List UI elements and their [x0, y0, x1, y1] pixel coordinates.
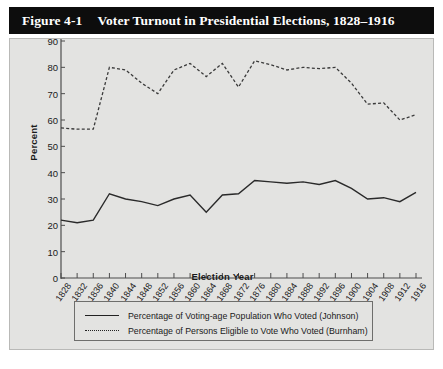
figure-container: Figure 4-1 Voter Turnout in Presidential…	[0, 0, 443, 369]
axis-lines	[61, 39, 422, 279]
x-tick-label: 1832	[70, 281, 90, 303]
legend-key-dotted-icon	[85, 330, 119, 331]
y-tick-label: 10	[36, 246, 58, 257]
y-tick-label: 20	[36, 220, 58, 231]
y-axis-ticks: 0102030405060708090	[34, 39, 58, 279]
x-tick-label: 1860	[183, 281, 203, 303]
x-tick-label: 1888	[296, 281, 316, 303]
x-tick-label: 1836	[86, 281, 106, 303]
x-tick-label: 1900	[344, 281, 364, 303]
series-line-burnham	[61, 61, 416, 129]
figure-title: Voter Turnout in Presidential Elections,…	[97, 13, 394, 29]
x-axis-label: Election Year	[10, 271, 435, 282]
x-tick-label: 1840	[102, 281, 122, 303]
chart-legend: Percentage of Voting-age Population Who …	[74, 301, 373, 341]
x-tick-label: 1892	[312, 281, 332, 303]
figure-number: Figure 4-1	[22, 13, 82, 29]
y-tick-label: 40	[36, 167, 58, 178]
legend-key-solid-icon	[85, 315, 119, 316]
axis-tickmarks	[61, 41, 416, 278]
figure-title-bar: Figure 4-1 Voter Turnout in Presidential…	[9, 7, 434, 34]
y-tick-label: 60	[36, 115, 58, 126]
x-tick-label: 1904	[360, 281, 380, 303]
legend-label-johnson: Percentage of Voting-age Population Who …	[128, 311, 358, 321]
y-tick-label: 80	[36, 62, 58, 73]
x-tick-label: 1916	[409, 281, 429, 303]
x-tick-label: 1844	[118, 281, 138, 303]
x-tick-label: 1856	[166, 281, 186, 303]
x-tick-label: 1876	[247, 281, 267, 303]
x-tick-label: 1868	[215, 281, 235, 303]
y-tick-label: 50	[36, 141, 58, 152]
series-line-johnson	[61, 181, 416, 223]
plot-area: Percent 0102030405060708090 182818321836…	[10, 39, 435, 279]
legend-label-burnham: Percentage of Persons Eligible to Vote W…	[128, 326, 368, 336]
x-tick-label: 1848	[134, 281, 154, 303]
x-tick-label: 1884	[279, 281, 299, 303]
y-tick-label: 30	[36, 194, 58, 205]
x-tick-label: 1912	[392, 281, 412, 303]
x-tick-label: 1852	[150, 281, 170, 303]
chart-panel: Percent 0102030405060708090 182818321836…	[9, 38, 434, 350]
x-tick-label: 1908	[376, 281, 396, 303]
x-tick-label: 1872	[231, 281, 251, 303]
x-tick-label: 1896	[328, 281, 348, 303]
y-tick-label: 90	[36, 36, 58, 47]
x-tick-label: 1828	[54, 281, 74, 303]
x-tick-label: 1880	[263, 281, 283, 303]
x-tick-label: 1864	[199, 281, 219, 303]
chart-svg	[60, 39, 422, 279]
legend-item-burnham: Percentage of Persons Eligible to Vote W…	[85, 323, 372, 338]
legend-item-johnson: Percentage of Voting-age Population Who …	[85, 308, 372, 323]
y-tick-label: 70	[36, 88, 58, 99]
